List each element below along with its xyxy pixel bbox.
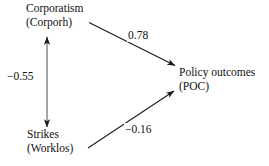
node-strikes-name: Strikes [27, 128, 59, 140]
edge-label-corporatism-strikes: −0.55 [6, 70, 35, 83]
node-policy-outcomes-abbrev: (POC) [179, 80, 255, 94]
node-corporatism: Corporatism (Corporh) [26, 2, 84, 29]
node-strikes: Strikes (Worklos) [27, 128, 73, 155]
edge-strikes-to-poc-line [88, 91, 174, 148]
node-strikes-abbrev: (Worklos) [27, 142, 73, 156]
node-corporatism-name: Corporatism [26, 2, 84, 14]
node-policy-outcomes-name: Policy outcomes [179, 66, 255, 78]
node-policy-outcomes: Policy outcomes (POC) [179, 66, 255, 93]
node-corporatism-abbrev: (Corporh) [26, 16, 84, 30]
edge-label-corporatism-to-poc: 0.78 [127, 29, 149, 42]
edge-label-strikes-to-poc: −0.16 [124, 123, 153, 136]
path-diagram: Corporatism (Corporh) Policy outcomes (P… [0, 0, 269, 166]
